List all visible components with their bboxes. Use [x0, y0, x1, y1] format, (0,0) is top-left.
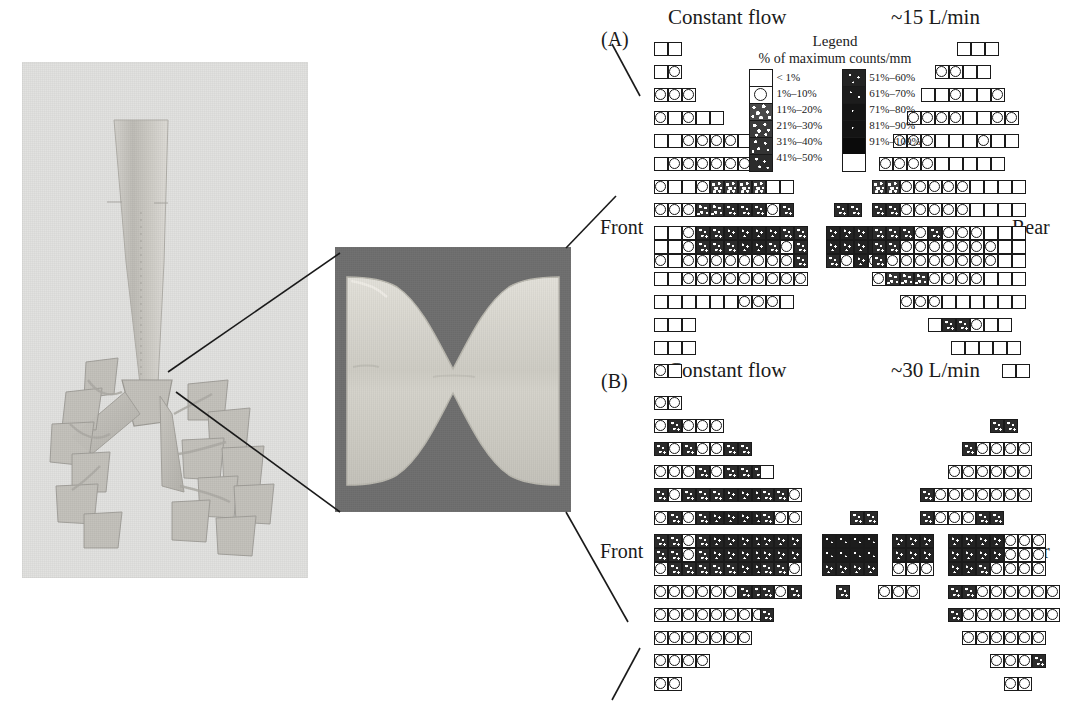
deposition-cell: [724, 240, 738, 254]
cell-dot-marker: [943, 181, 954, 192]
speckle-texture: [865, 563, 877, 575]
deposition-cell: [836, 562, 850, 576]
deposition-cell: [682, 157, 696, 171]
speckle-texture: [789, 535, 801, 547]
deposition-cell: [991, 111, 1005, 125]
deposition-cell: [710, 534, 724, 548]
deposition-cell: [724, 272, 738, 286]
cell-dot-marker: [655, 204, 666, 215]
speckle-texture: [750, 104, 772, 120]
deposition-cell: [900, 180, 914, 194]
deposition-cell: [962, 534, 976, 548]
speckle-texture: [963, 549, 975, 561]
deposition-cell: [788, 488, 802, 502]
deposition-cell: [668, 364, 682, 378]
deposition-cell: [682, 465, 696, 479]
cell-dot-marker: [1005, 489, 1016, 500]
deposition-cell: [654, 295, 668, 309]
deposition-cell: [738, 631, 752, 645]
cell-dot-marker: [1019, 609, 1030, 620]
deposition-cell: [962, 442, 976, 456]
deposition-cell: [976, 442, 990, 456]
deposition-cell: [920, 548, 934, 562]
speckle-texture: [739, 466, 751, 478]
deposition-cell: [962, 608, 976, 622]
deposition-cell: [654, 654, 668, 668]
cell-dot-marker: [901, 241, 912, 252]
deposition-cell: [998, 254, 1012, 268]
cell-dot-marker: [683, 135, 694, 146]
speckle-texture: [841, 227, 853, 239]
deposition-cell: [682, 488, 696, 502]
cell-dot-marker: [971, 255, 982, 266]
speckle-texture: [837, 586, 849, 598]
deposition-cell: [668, 419, 682, 433]
deposition-cell: [780, 180, 794, 194]
deposition-cell: [682, 654, 696, 668]
speckle-texture: [767, 227, 779, 239]
deposition-cell: [990, 419, 1004, 433]
deposition-cell: [696, 295, 710, 309]
deposition-cell: [724, 180, 738, 194]
deposition-cell: [1004, 534, 1018, 548]
cell-dot-marker: [977, 489, 988, 500]
deposition-cell: [949, 134, 963, 148]
legend-swatch: [843, 121, 865, 138]
speckle-texture: [1033, 655, 1045, 667]
deposition-cell: [892, 548, 906, 562]
deposition-cell: [774, 585, 788, 599]
deposition-cell: [668, 42, 682, 56]
deposition-cell: [1018, 534, 1032, 548]
deposition-cell: [654, 631, 668, 645]
cell-dot-marker: [725, 255, 736, 266]
deposition-cell: [998, 203, 1012, 217]
deposition-cell: [724, 548, 738, 562]
deposition-cell: [928, 272, 942, 286]
cell-dot-marker: [739, 273, 750, 284]
deposition-cell: [794, 240, 808, 254]
speckle-texture: [823, 535, 835, 547]
deposition-cell: [668, 254, 682, 268]
deposition-cell: [1004, 585, 1018, 599]
deposition-cell: [774, 548, 788, 562]
cell-dot-marker: [1005, 632, 1016, 643]
speckle-texture: [949, 609, 961, 621]
cell-dot-marker: [683, 420, 694, 431]
deposition-cell: [998, 318, 1012, 332]
speckle-texture: [949, 586, 961, 598]
speckle-texture: [921, 489, 933, 501]
deposition-cell: [840, 254, 854, 268]
deposition-cell: [710, 295, 724, 309]
cell-dot-marker: [739, 632, 750, 643]
deposition-cell: [1018, 488, 1032, 502]
cell-dot-marker: [1047, 586, 1058, 597]
deposition-cell: [976, 465, 990, 479]
cell-dot-marker: [978, 135, 989, 146]
cell-dot-marker: [963, 632, 974, 643]
deposition-cell: [682, 631, 696, 645]
speckle-texture: [775, 549, 787, 561]
cell-dot-marker: [697, 443, 708, 454]
deposition-cell: [906, 562, 920, 576]
cell-dot-marker: [725, 158, 736, 169]
legend-label: 91%–100%: [869, 133, 920, 149]
legend-label: < 1%: [776, 69, 822, 85]
deposition-cell: [760, 548, 774, 562]
cell-dot-marker: [739, 255, 750, 266]
speckle-texture: [991, 549, 1003, 561]
cell-dot-marker: [725, 273, 736, 284]
cell-dot-marker: [901, 255, 912, 266]
deposition-cell: [794, 254, 808, 268]
speckle-texture: [855, 241, 867, 253]
speckle-texture: [949, 535, 961, 547]
speckle-texture: [851, 535, 863, 547]
speckle-texture: [851, 549, 863, 561]
deposition-cell: [654, 488, 668, 502]
speckle-texture: [1005, 420, 1017, 432]
deposition-cell: [752, 226, 766, 240]
speckle-texture: [775, 563, 787, 575]
deposition-cell: [948, 562, 962, 576]
deposition-cell: [738, 488, 752, 502]
speckle-texture: [753, 227, 765, 239]
deposition-cell: [774, 488, 788, 502]
